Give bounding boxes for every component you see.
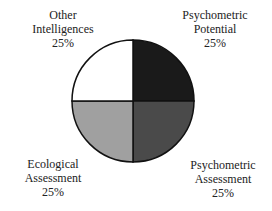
label-psychometric-assessment: Psychometric Assessment 25% <box>180 158 266 200</box>
label-line2: Assessment <box>180 172 266 186</box>
label-pct: 25% <box>172 36 258 50</box>
label-pct: 25% <box>10 185 96 199</box>
pie-slice-ecological-assessment <box>72 101 133 162</box>
label-line1: Other <box>20 8 106 22</box>
label-line1: Ecological <box>10 157 96 171</box>
label-pct: 25% <box>20 36 106 50</box>
label-ecological-assessment: Ecological Assessment 25% <box>10 157 96 199</box>
label-line2: Intelligences <box>20 22 106 36</box>
label-pct: 25% <box>180 186 266 200</box>
label-line1: Psychometric <box>180 158 266 172</box>
label-psychometric-potential: Psychometric Potential 25% <box>172 8 258 50</box>
label-line2: Potential <box>172 22 258 36</box>
label-other-intelligences: Other Intelligences 25% <box>20 8 106 50</box>
label-line1: Psychometric <box>172 8 258 22</box>
pie-slice-psychometric-assessment <box>133 101 194 162</box>
label-line2: Assessment <box>10 171 96 185</box>
